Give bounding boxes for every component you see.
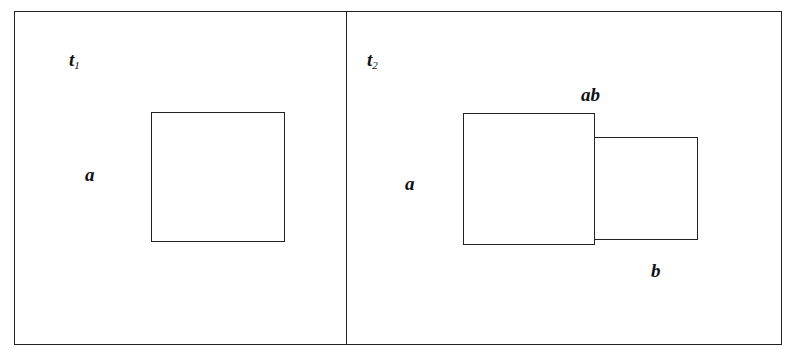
time-label-sub: 1 [74,59,80,71]
panel-divider [346,11,347,345]
time-label-sub: 2 [372,59,378,71]
square-a [151,112,285,242]
region-label-ab: ab [581,85,600,104]
region-label-a: a [405,174,415,193]
square-a [463,113,595,245]
region-label-b: b [651,261,661,280]
time-label-t1: t1 [69,50,80,71]
square-b [594,137,698,240]
time-label-t2: t2 [367,50,378,71]
region-label-a: a [85,165,95,184]
